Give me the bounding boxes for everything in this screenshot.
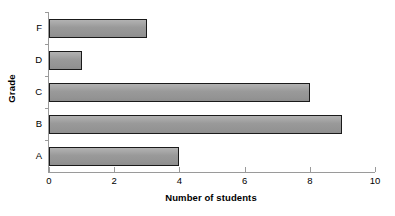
bar xyxy=(49,51,82,70)
y-axis-tick-label: B xyxy=(12,108,42,140)
bar xyxy=(49,115,342,134)
bar-row: C xyxy=(49,76,375,108)
y-axis-tick xyxy=(45,44,49,45)
bar-row: F xyxy=(49,12,375,44)
x-axis-tick xyxy=(179,167,180,172)
y-axis-tick xyxy=(45,140,49,141)
bar xyxy=(49,19,147,38)
bar-row: A xyxy=(49,140,375,172)
x-axis-title: Number of students xyxy=(48,192,374,203)
x-axis-tick-label: 4 xyxy=(177,176,182,186)
y-axis-tick-label: A xyxy=(12,140,42,172)
y-axis-tick-label: F xyxy=(12,12,42,44)
y-axis-tick xyxy=(45,12,49,13)
bar-row: D xyxy=(49,44,375,76)
y-axis-tick-label: C xyxy=(12,76,42,108)
bar xyxy=(49,147,179,166)
x-axis-tick xyxy=(245,167,246,172)
x-axis-tick xyxy=(375,167,376,172)
bar xyxy=(49,83,310,102)
bar-row: B xyxy=(49,108,375,140)
bar-chart: Grade ABCDF0246810 Number of students xyxy=(0,0,395,216)
y-axis-tick xyxy=(45,108,49,109)
x-axis-tick-label: 6 xyxy=(242,176,247,186)
plot-area: ABCDF0246810 xyxy=(48,12,375,173)
y-axis-tick xyxy=(45,76,49,77)
x-axis-tick xyxy=(49,167,50,172)
x-axis-tick xyxy=(114,167,115,172)
x-axis-tick-label: 0 xyxy=(46,176,51,186)
x-axis-tick xyxy=(310,167,311,172)
x-axis-tick-label: 2 xyxy=(112,176,117,186)
x-axis-tick-label: 10 xyxy=(370,176,381,186)
y-axis-tick-label: D xyxy=(12,44,42,76)
x-axis-tick-label: 8 xyxy=(307,176,312,186)
